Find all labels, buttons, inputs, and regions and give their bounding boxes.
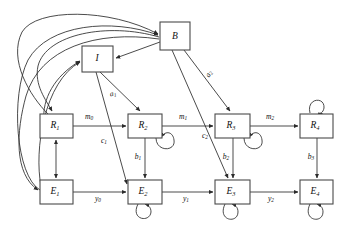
node-r4[interactable]: R4 xyxy=(300,114,333,138)
node-i[interactable]: I xyxy=(82,46,113,72)
edge-b-to-r3 xyxy=(184,50,230,111)
node-e1[interactable]: E1 xyxy=(40,180,73,204)
node-r3[interactable]: R3 xyxy=(215,114,250,138)
edge-label-m2: m2 xyxy=(266,112,274,122)
self-loop-e4 xyxy=(308,204,323,219)
self-loop-e2 xyxy=(136,204,151,219)
edge-label-b1: b1 xyxy=(135,152,142,162)
self-loop-r4 xyxy=(309,100,324,113)
node-r1[interactable]: R1 xyxy=(40,114,73,138)
edge-label-y0: y0 xyxy=(94,194,101,204)
edge-r1-to-i xyxy=(44,61,80,120)
diagram-canvas: B I R1 R2 xyxy=(0,0,353,236)
edge-label-m0: m0 xyxy=(85,112,93,122)
edge-label-m1: m1 xyxy=(179,112,187,122)
edge-label-y1: y1 xyxy=(182,194,189,204)
edge-b-to-i xyxy=(116,42,160,58)
edge-label-a1: a1 xyxy=(109,88,118,99)
node-b-label: B xyxy=(172,31,178,41)
graph-diagram: B I R1 R2 xyxy=(0,0,353,236)
edge-label-group: m0 m1 m2 y0 y1 y2 b1 b2 xyxy=(85,68,315,203)
edge-label-b3: b3 xyxy=(308,152,315,162)
node-e3[interactable]: E3 xyxy=(215,180,250,204)
edge-label-c1: c1 xyxy=(101,136,107,146)
edge-label-b2: b2 xyxy=(223,152,230,162)
node-r2[interactable]: R2 xyxy=(128,114,162,138)
node-e4[interactable]: E4 xyxy=(300,180,333,204)
edge-i-to-r2 xyxy=(100,72,140,111)
self-loop-e3 xyxy=(223,204,238,219)
node-b[interactable]: B xyxy=(160,22,190,50)
edge-label-y2: y2 xyxy=(267,194,274,204)
feedback-edge-group xyxy=(18,14,159,190)
edge-label-c2: c2 xyxy=(202,131,208,141)
node-e2[interactable]: E2 xyxy=(128,180,162,204)
